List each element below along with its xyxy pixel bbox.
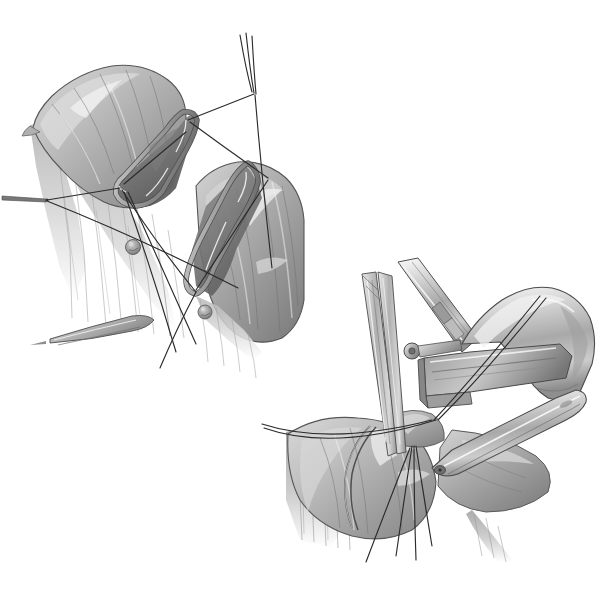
illustration-canvas: [0, 0, 608, 591]
lymph-node-upper: [126, 240, 141, 255]
lymph-node-lower: [198, 305, 212, 319]
surgical-illustration-figure: Stapled side-to-side bowel anastomosis: [0, 0, 608, 591]
